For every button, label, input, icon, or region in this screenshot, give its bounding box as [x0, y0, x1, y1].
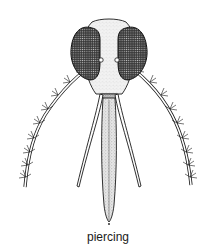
right-antenna-socket — [115, 58, 119, 62]
piercing-mouthparts-illustration — [0, 0, 216, 252]
left-compound-eye — [71, 27, 100, 80]
left-maxillary-palp — [77, 94, 103, 187]
figure-caption: piercing — [0, 230, 216, 244]
left-antenna-socket — [99, 58, 103, 62]
tip-mark — [108, 223, 110, 225]
right-maxillary-palp — [115, 94, 141, 187]
